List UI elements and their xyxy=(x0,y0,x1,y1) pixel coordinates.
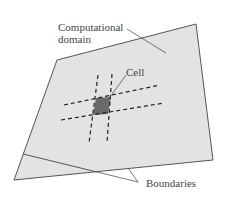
boundaries-label: Boundaries xyxy=(146,177,196,189)
computational-domain-diagram: Computational domain Cell Boundaries xyxy=(0,0,229,206)
domain-label-line1: Computational xyxy=(58,21,123,33)
domain-label-line2: domain xyxy=(58,33,91,45)
computational-domain xyxy=(14,24,213,180)
cell-label: Cell xyxy=(126,66,144,78)
